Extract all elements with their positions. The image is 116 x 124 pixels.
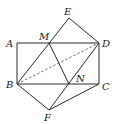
label-F: F (43, 112, 52, 123)
segment-FC (49, 84, 99, 110)
label-A: A (5, 38, 13, 49)
label-B: B (5, 79, 13, 90)
label-E: E (63, 6, 72, 17)
segment-BE (17, 18, 69, 84)
geometry-diagram: A M D E B N C F (0, 0, 116, 124)
segment-BF (17, 84, 49, 110)
label-M: M (38, 31, 50, 42)
segment-ED (69, 18, 99, 43)
dashed-segments (17, 43, 99, 84)
segment-FD (49, 43, 99, 110)
label-C: C (102, 81, 110, 92)
label-N: N (75, 73, 86, 84)
segment-BD (17, 43, 99, 84)
label-D: D (101, 38, 110, 49)
